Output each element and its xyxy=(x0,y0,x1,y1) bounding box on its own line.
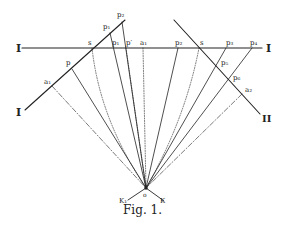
figure-caption: Fig. 1. xyxy=(0,203,285,217)
label-a1-left: a₁ xyxy=(44,78,51,86)
label-p2: p₂ xyxy=(117,11,124,19)
solid-rays xyxy=(72,22,252,188)
label-a1-h: a₁ xyxy=(140,39,147,47)
label-horizontal-right: I xyxy=(266,42,271,55)
label-o: o xyxy=(143,191,147,198)
label-p6-r: p₆ xyxy=(233,74,240,82)
oblique-line-right xyxy=(174,20,260,114)
label-oblique-left: I xyxy=(16,106,21,119)
label-horizontal-left: I xyxy=(16,42,21,55)
label-pprime: p′ xyxy=(126,39,132,47)
label-p4-h: p₄ xyxy=(250,39,257,47)
label-oblique-right: II xyxy=(262,113,272,124)
label-a2-r: a₂ xyxy=(245,86,252,94)
label-s-right: s xyxy=(200,39,204,47)
label-p5-r: p₅ xyxy=(221,59,228,67)
dashed-rays xyxy=(52,86,242,188)
label-p2-h: p₂ xyxy=(175,39,182,47)
diagram-canvas: I I I II p₂ p₁ s p₁ p′ a₁ p a₁ p₂ s p₃ p… xyxy=(0,0,285,236)
label-p-left: p xyxy=(66,59,71,67)
dotted-rays xyxy=(92,48,199,188)
label-p3-h: p₃ xyxy=(226,39,233,47)
label-p1: p₁ xyxy=(103,23,110,31)
label-p1-h: p₁ xyxy=(112,39,119,47)
label-s-left: s xyxy=(88,39,92,47)
apex-point xyxy=(144,186,148,190)
